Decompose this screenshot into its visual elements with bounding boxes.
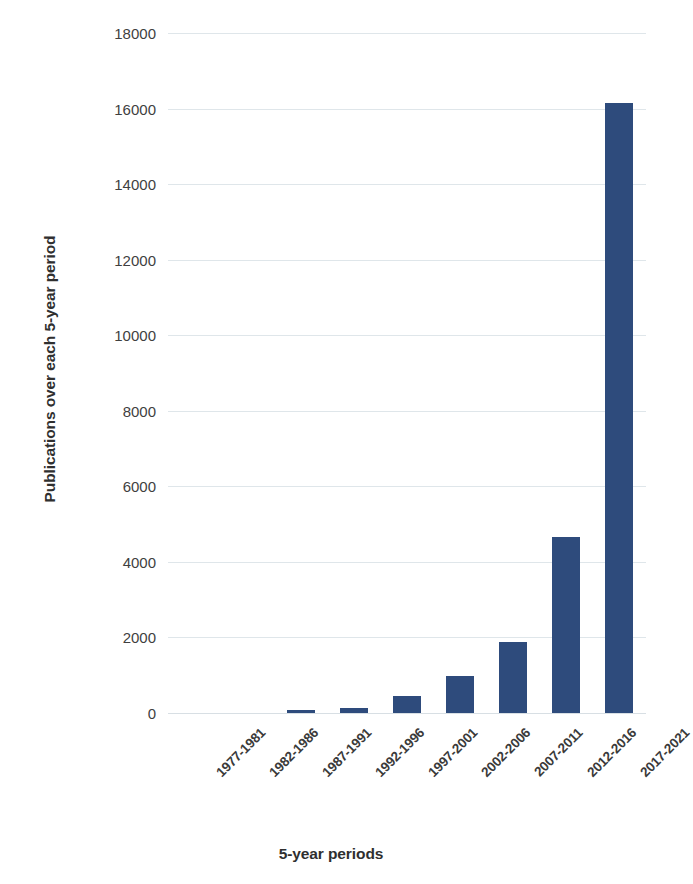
bar-slot xyxy=(327,33,380,713)
bar xyxy=(552,537,580,713)
y-tick-label: 0 xyxy=(78,705,156,722)
x-tick-text: 2017-2021 xyxy=(638,725,693,780)
bar xyxy=(499,642,527,713)
y-tick-label: 6000 xyxy=(78,478,156,495)
bar xyxy=(446,676,474,713)
bar-slot xyxy=(168,33,221,713)
y-tick-label: 18000 xyxy=(78,25,156,42)
bar-slot xyxy=(380,33,433,713)
x-tick-label: 2017-2021 xyxy=(619,723,682,741)
bar-slot xyxy=(221,33,274,713)
y-axis-title: Publications over each 5-year period xyxy=(41,229,59,509)
x-axis-ticks: 1977-19811982-19861987-19911992-19961997… xyxy=(168,713,646,823)
bar-slot xyxy=(593,33,646,713)
bar-slot xyxy=(434,33,487,713)
bar-series xyxy=(168,33,646,713)
plot-area xyxy=(168,33,646,713)
bar xyxy=(605,103,633,713)
bar xyxy=(393,696,421,713)
y-tick-label: 14000 xyxy=(78,176,156,193)
y-tick-label: 10000 xyxy=(78,327,156,344)
y-tick-label: 8000 xyxy=(78,402,156,419)
bar-slot xyxy=(274,33,327,713)
y-tick-label: 12000 xyxy=(78,251,156,268)
bar-slot xyxy=(487,33,540,713)
y-tick-label: 2000 xyxy=(78,629,156,646)
y-tick-label: 4000 xyxy=(78,553,156,570)
y-tick-label: 16000 xyxy=(78,100,156,117)
bar-slot xyxy=(540,33,593,713)
x-axis-title: 5-year periods xyxy=(0,845,662,863)
